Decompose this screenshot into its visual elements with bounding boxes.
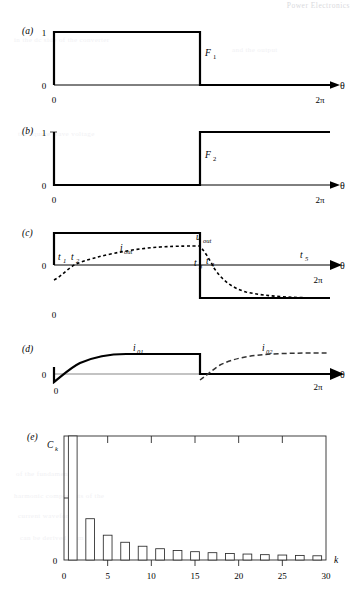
panel-a-ylabel-zero: 0 (42, 81, 47, 91)
panel-c-ylabel-zero: 0 (42, 261, 47, 271)
panel-a-label: (a) (22, 26, 33, 37)
bar-k5 (103, 535, 112, 560)
bar-k9 (138, 546, 147, 560)
bar-k13 (173, 550, 182, 560)
panel-b-axis-label: θ (340, 180, 345, 191)
panel-e-bars (68, 436, 321, 560)
panel-a-curve-sub: 1 (213, 53, 216, 60)
panel-e-xtick-10: 10 (147, 571, 157, 581)
panel-c-marker-t2: t (71, 252, 74, 262)
bar-k23 (261, 555, 270, 560)
bar-k29 (313, 556, 322, 560)
panel-c-label: (c) (22, 228, 33, 239)
panel-d-plot: (d) 0 0 2π θ i 01 i 02 (0, 334, 356, 420)
panel-e-xtick-30: 30 (322, 571, 332, 581)
figure-container: Power Electronics in the dc side of the … (0, 0, 356, 600)
panel-d-xlabel-end: 2π (313, 382, 323, 392)
bar-k19 (226, 553, 235, 560)
panel-d-current2-label: i (262, 343, 265, 353)
panel-c-marker-t3: t (194, 258, 197, 268)
panel-d-label: (d) (22, 344, 33, 355)
bar-k17 (208, 553, 217, 560)
panel-e-label: (e) (27, 432, 38, 443)
panel-c-plot: (c) 0 0 2π θ u out i out t 1 t 2 t 3 t 4… (0, 218, 356, 330)
panel-b-plot: (b) 1 0 0 2π θ F 2 (0, 118, 356, 210)
bar-k21 (243, 554, 252, 560)
panel-a-xlabel-zero: 0 (52, 95, 57, 105)
panel-c-marker-t5: t (300, 250, 303, 260)
panel-d-current1-label: i (133, 343, 136, 353)
panel-e-ticks-bottom (108, 560, 283, 566)
panel-e-xtick-5: 5 (105, 571, 110, 581)
panel-c-voltage-sub: out (203, 237, 212, 244)
panel-e: (e) C k 0 k (0, 424, 356, 600)
panel-a-xlabel-end: 2π (315, 95, 325, 105)
bar-k1 (68, 436, 77, 560)
panel-b-xlabel-end: 2π (315, 195, 325, 205)
panel-a-ylabel-high: 1 (42, 28, 47, 38)
panel-b: (b) 1 0 0 2π θ F 2 (0, 118, 356, 210)
bar-k11 (156, 549, 165, 560)
panel-a-waveform-f1 (54, 32, 330, 85)
panel-b-ylabel-high: 1 (42, 128, 47, 138)
panel-b-axis-arrow (330, 181, 340, 189)
panel-d-xlabel-zero: 0 (54, 386, 59, 396)
panel-e-ylabel-zero: 0 (53, 556, 58, 566)
panel-c: (c) 0 0 2π θ u out i out t 1 t 2 t 3 t 4… (0, 218, 356, 330)
panel-e-ylabel: C (47, 440, 54, 450)
panel-a-plot: (a) 1 0 0 2π θ F 1 (0, 18, 356, 110)
panel-d-waveform-i01 (54, 354, 330, 382)
ghost-header-text: Power Electronics (287, 1, 350, 10)
panel-d: (d) 0 0 2π θ i 01 i 02 (0, 334, 356, 420)
panel-b-curve-sub: 2 (213, 155, 216, 162)
panel-b-ylabel-zero: 0 (42, 181, 47, 191)
panel-c-xlabel-zero: 0 (52, 310, 57, 320)
bar-k3 (86, 519, 95, 560)
panel-b-curve-label: F (204, 150, 211, 160)
panel-b-xlabel-zero: 0 (52, 195, 57, 205)
panel-b-waveform-f2 (54, 132, 330, 185)
panel-c-xlabel-end: 2π (313, 275, 323, 285)
panel-b-label: (b) (22, 126, 33, 137)
panel-e-plot: (e) C k 0 k (0, 424, 356, 600)
panel-d-waveform-i02 (200, 353, 328, 380)
panel-d-ylabel-zero: 0 (42, 370, 47, 380)
panel-e-xtick-labels: 0 5 10 15 20 25 30 (62, 571, 331, 581)
bar-k15 (191, 552, 200, 560)
panel-a-axis-label: θ (340, 80, 345, 91)
panel-e-xtick-25: 25 (278, 571, 288, 581)
bar-k7 (121, 542, 130, 560)
panel-e-xtick-20: 20 (234, 571, 244, 581)
panel-e-xlabel: k (334, 555, 339, 565)
panel-a: (a) 1 0 0 2π θ F 1 (0, 18, 356, 110)
panel-c-waveform-iout (54, 246, 330, 298)
panel-e-xtick-15: 15 (191, 571, 201, 581)
bar-k25 (278, 555, 287, 560)
panel-c-marker-t5-sub: 5 (305, 255, 309, 262)
panel-a-axis-arrow (330, 81, 340, 89)
bar-k27 (295, 555, 304, 560)
panel-c-marker-t1: t (58, 252, 61, 262)
panel-c-marker-t1-sub: 1 (63, 257, 66, 264)
panel-a-curve-label: F (204, 48, 211, 58)
panel-e-xtick-0: 0 (62, 571, 67, 581)
panel-e-ylabel-sub: k (55, 445, 58, 452)
panel-e-ticks-top (108, 436, 283, 443)
